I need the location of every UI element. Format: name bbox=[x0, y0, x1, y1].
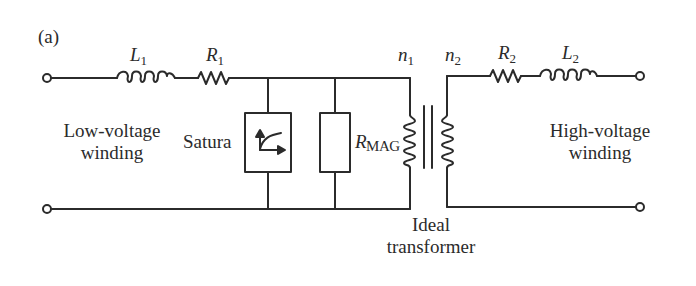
label-n2: n2 bbox=[445, 44, 461, 68]
label-l1: L1 bbox=[130, 44, 147, 68]
panel-label: (a) bbox=[38, 26, 59, 48]
label-l2: L2 bbox=[562, 42, 579, 66]
secondary-winding-icon bbox=[442, 115, 453, 168]
label-n1: n1 bbox=[398, 44, 414, 68]
resistor-r1-icon bbox=[198, 72, 229, 84]
saturation-label: Satura bbox=[183, 131, 232, 153]
low-voltage-winding-label: Low-voltage winding bbox=[52, 120, 172, 164]
inductor-l1-icon bbox=[117, 72, 175, 83]
saturation-box bbox=[245, 113, 291, 172]
high-voltage-winding-label: High-voltage winding bbox=[535, 120, 665, 164]
terminal-top-right bbox=[636, 72, 644, 80]
terminal-top-left bbox=[43, 74, 51, 82]
terminal-bottom-right bbox=[636, 203, 644, 211]
terminal-bottom-left bbox=[43, 205, 51, 213]
inductor-l2-icon bbox=[540, 70, 597, 81]
ideal-transformer-label: Ideal transformer bbox=[366, 214, 496, 258]
rmag-label: RMAG bbox=[355, 131, 400, 154]
rmag-resistor-box bbox=[320, 113, 350, 172]
primary-winding-icon bbox=[404, 115, 415, 168]
resistor-r2-icon bbox=[490, 70, 521, 82]
label-r1: R1 bbox=[206, 44, 224, 68]
label-r2: R2 bbox=[498, 42, 516, 66]
